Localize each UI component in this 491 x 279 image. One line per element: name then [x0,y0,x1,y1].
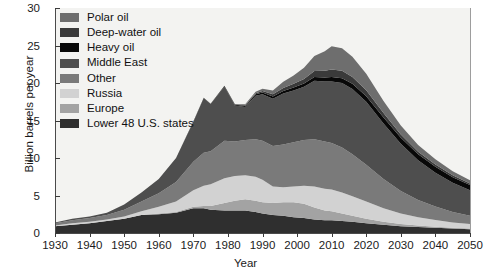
legend-swatch-icon [60,43,79,52]
legend-item: Other [60,71,194,86]
legend-swatch-icon [60,119,79,128]
legend-swatch-icon [60,13,79,22]
x-tick-mark [401,233,402,237]
x-tick-mark [470,233,471,237]
x-tick-mark [435,233,436,237]
legend-item: Polar oil [60,10,194,25]
x-tick-mark [332,233,333,237]
chart-legend: Polar oilDeep-water oilHeavy oilMiddle E… [60,10,194,132]
x-tick-mark [366,233,367,237]
legend-swatch-icon [60,104,79,113]
x-tick-mark [263,233,264,237]
x-tick-mark [297,233,298,237]
x-tick-label: 1930 [42,239,68,251]
legend-item-label: Deep-water oil [87,27,161,39]
legend-item: Middle East [60,56,194,71]
x-tick-mark [90,233,91,237]
legend-item-label: Polar oil [87,12,129,24]
legend-item: Europe [60,101,194,116]
legend-item: Heavy oil [60,40,194,55]
legend-swatch-icon [60,28,79,37]
legend-item-label: Europe [87,103,124,115]
x-tick-label: 1990 [250,239,276,251]
legend-item-label: Lower 48 U.S. states [87,118,194,130]
x-tick-label: 2020 [353,239,379,251]
legend-swatch-icon [60,74,79,83]
x-tick-mark [228,233,229,237]
x-tick-label: 2030 [388,239,414,251]
x-tick-label: 2050 [457,239,483,251]
legend-item-label: Heavy oil [87,42,134,54]
x-tick-label: 1940 [77,239,103,251]
x-tick-mark [55,233,56,237]
legend-swatch-icon [60,89,79,98]
legend-item: Russia [60,86,194,101]
legend-item: Deep-water oil [60,25,194,40]
x-tick-mark [124,233,125,237]
legend-swatch-icon [60,59,79,68]
legend-item-label: Middle East [87,57,147,69]
legend-item: Lower 48 U.S. states [60,116,194,131]
x-tick-label: 1950 [111,239,137,251]
oil-production-stacked-area-chart: Billion barrels per year Year 0510152025… [0,0,491,279]
x-tick-mark [193,233,194,237]
x-tick-label: 2040 [423,239,449,251]
x-tick-label: 1980 [215,239,241,251]
x-tick-label: 1960 [146,239,172,251]
legend-item-label: Other [87,73,116,85]
x-tick-mark [159,233,160,237]
x-tick-label: 1970 [181,239,207,251]
x-tick-label: 2000 [284,239,310,251]
x-tick-label: 2010 [319,239,345,251]
legend-item-label: Russia [87,88,122,100]
